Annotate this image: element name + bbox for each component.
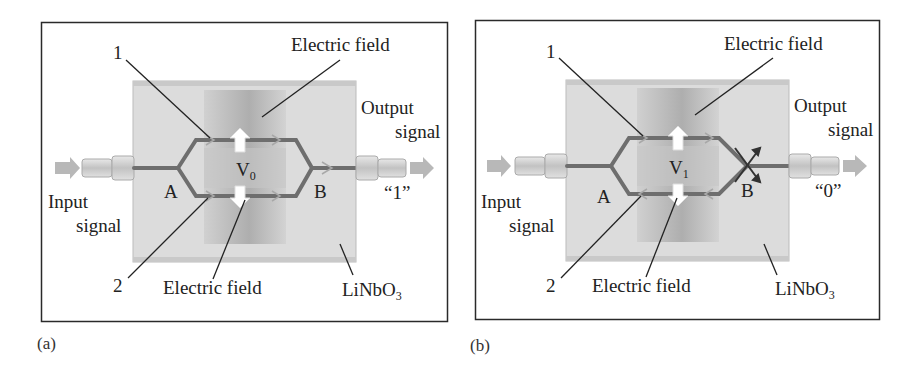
label-input-line1: Input: [48, 192, 88, 211]
caption-a: (a): [37, 334, 56, 354]
output-connector: [356, 156, 378, 180]
label-output-value: “1”: [384, 183, 410, 202]
label-junction-b: B: [741, 181, 754, 200]
label-electric-field-top: Electric field: [291, 35, 390, 54]
label-waveguide-2: 2: [113, 276, 123, 295]
caption-b: (b): [470, 336, 490, 356]
label-waveguide-2: 2: [546, 276, 556, 295]
label-junction-a: A: [597, 187, 611, 206]
label-voltage: V1: [669, 158, 689, 180]
input-connector: [515, 157, 545, 175]
label-junction-a: A: [164, 182, 178, 201]
label-voltage: V0: [236, 160, 256, 182]
label-output-line1: Output: [794, 96, 847, 115]
label-electric-field-top: Electric field: [724, 34, 823, 53]
label-junction-b: B: [314, 182, 327, 201]
label-waveguide-1: 1: [113, 43, 123, 62]
label-input-line2: signal: [509, 216, 554, 235]
label-output-line2: signal: [395, 122, 440, 141]
label-electric-field-bottom: Electric field: [592, 276, 691, 295]
panel-b: 1 Electric field Output signal V1 A B “0…: [455, 0, 915, 376]
label-output-value: “0”: [815, 181, 841, 200]
label-substrate: LiNbO3: [342, 280, 402, 302]
modulator-diagram-b: [455, 0, 915, 376]
label-output-line2: signal: [828, 120, 873, 139]
label-input-line1: Input: [481, 192, 521, 211]
label-substrate: LiNbO3: [775, 279, 835, 301]
label-output-line1: Output: [361, 98, 414, 117]
label-waveguide-1: 1: [546, 42, 556, 61]
label-input-line2: signal: [76, 216, 121, 235]
label-electric-field-bottom: Electric field: [163, 278, 262, 297]
input-connector: [82, 159, 112, 177]
panel-a: 1 Electric field Output signal V0 A B “1…: [0, 0, 460, 376]
output-connector: [789, 154, 811, 178]
